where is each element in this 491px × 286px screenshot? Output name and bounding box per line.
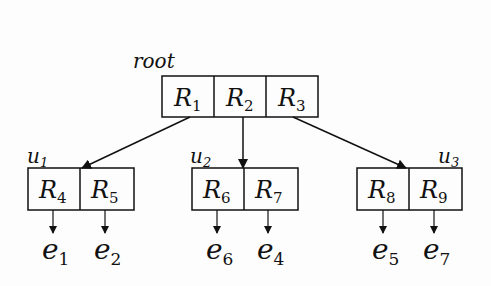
root-entry-r1: R1 [173, 84, 202, 115]
node-u1-label: u1 [27, 144, 48, 170]
entry-r4: R4 [38, 176, 67, 207]
root-label: root [133, 49, 176, 73]
rtree-diagram: root R1 R2 R3 u1 R4 R5 e1 e2 u2 R6 R7 e6… [0, 0, 491, 286]
leaf-e5: e5 [372, 233, 399, 269]
node-u2: R6 R7 [192, 168, 298, 210]
edge-r1-u1 [82, 117, 190, 168]
leaf-e1: e1 [42, 233, 69, 269]
leaf-e7: e7 [423, 233, 450, 269]
root-entry-r2: R2 [225, 84, 254, 115]
entry-r6: R6 [202, 176, 231, 207]
root-entry-r3: R3 [277, 84, 306, 115]
node-u3: R8 R9 [357, 168, 462, 210]
node-u2-label: u2 [190, 144, 211, 170]
node-u1: R4 R5 [28, 168, 134, 210]
entry-r7: R7 [254, 176, 283, 207]
leaf-e6: e6 [206, 233, 233, 269]
leaf-e4: e4 [257, 233, 284, 269]
node-u3-label: u3 [438, 144, 459, 170]
entry-r9: R9 [419, 176, 448, 207]
entry-r5: R5 [90, 176, 119, 207]
root-node: R1 R2 R3 [162, 76, 318, 117]
entry-r8: R8 [367, 176, 396, 207]
leaf-e2: e2 [94, 233, 121, 269]
edge-r3-u3 [293, 117, 406, 168]
